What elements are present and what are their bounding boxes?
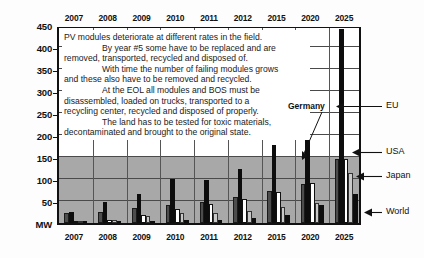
x-label-bottom-2020: 2020 bbox=[293, 232, 327, 242]
x-label-top-2015: 2015 bbox=[260, 13, 294, 23]
x-label-top-2020: 2020 bbox=[293, 13, 327, 23]
note-line-7: disassembled, loaded on trucks, transpor… bbox=[64, 96, 308, 107]
bar-world-2012 bbox=[252, 218, 257, 223]
bar-world-2025 bbox=[353, 194, 358, 223]
x-label-top-2025: 2025 bbox=[327, 13, 361, 23]
note-line-2: By year #5 some have to be replaced and … bbox=[64, 43, 308, 54]
bar-world-2015 bbox=[285, 215, 290, 223]
y-tick-label-mw: MW bbox=[4, 220, 52, 230]
y-tick-label-400: 400 bbox=[4, 44, 52, 54]
callout-usa-label: USA bbox=[386, 146, 405, 156]
note-line-5: and these also have to be removed and re… bbox=[64, 74, 308, 85]
note-line-4: With time the number of failing modules … bbox=[64, 64, 308, 75]
x-label-top-2009: 2009 bbox=[125, 13, 159, 23]
bar-world-2009 bbox=[150, 221, 155, 223]
y-tick-label-300: 300 bbox=[4, 88, 52, 98]
callout-world-label: World bbox=[386, 206, 409, 216]
x-label-bottom-2007: 2007 bbox=[57, 232, 91, 242]
x-label-bottom-2025: 2025 bbox=[327, 232, 361, 242]
callout-japan-arrow bbox=[356, 171, 384, 182]
y-tick-label-350: 350 bbox=[4, 66, 52, 76]
note-line-1: PV modules deteriorate at different rate… bbox=[64, 32, 308, 43]
x-label-bottom-2011: 2011 bbox=[192, 232, 226, 242]
x-label-bottom-2012: 2012 bbox=[226, 232, 260, 242]
x-label-top-2008: 2008 bbox=[91, 13, 125, 23]
x-label-top-2010: 2010 bbox=[158, 13, 192, 23]
callout-world-arrow bbox=[364, 207, 384, 218]
x-label-bottom-2015: 2015 bbox=[260, 232, 294, 242]
y-tick-label-200: 200 bbox=[4, 132, 52, 142]
note-line-6: At the EOL all modules and BOS must be bbox=[64, 85, 308, 96]
y-tick-label-150: 150 bbox=[4, 154, 52, 164]
callout-eu-arrow bbox=[336, 101, 384, 112]
y-tick-label-250: 250 bbox=[4, 110, 52, 120]
note-line-9: The land has to be tested for toxic mate… bbox=[64, 117, 308, 128]
bar-world-2011 bbox=[218, 220, 223, 223]
callout-usa-arrow bbox=[352, 147, 384, 158]
callout-eu-label: EU bbox=[386, 100, 399, 110]
bar-world-2020 bbox=[319, 205, 324, 223]
bar-world-2008 bbox=[117, 221, 122, 223]
annotation-text-block: PV modules deteriorate at different rate… bbox=[62, 30, 310, 140]
callout-japan-label: Japan bbox=[386, 170, 411, 180]
bar-world-2010 bbox=[184, 220, 189, 223]
note-line-10: decontaminated and brought to the origin… bbox=[64, 127, 308, 138]
x-label-bottom-2010: 2010 bbox=[158, 232, 192, 242]
bar-world-2007 bbox=[83, 221, 88, 223]
y-tick-label-450: 450 bbox=[4, 22, 52, 32]
y-tick-label-100: 100 bbox=[4, 176, 52, 186]
figure-canvas: 45040035030025020015010050MW 20072008200… bbox=[0, 0, 424, 258]
x-label-top-2012: 2012 bbox=[226, 13, 260, 23]
x-label-bottom-2009: 2009 bbox=[125, 232, 159, 242]
x-label-top-2011: 2011 bbox=[192, 13, 226, 23]
note-line-3: removed, transported, recycled and dispo… bbox=[64, 53, 308, 64]
y-tick-label-50: 50 bbox=[4, 198, 52, 208]
callout-germany-leader-line bbox=[300, 110, 340, 162]
note-line-8: recycling center, recycled and disposed … bbox=[64, 106, 308, 117]
gridline-100 bbox=[59, 178, 359, 179]
x-label-top-2007: 2007 bbox=[57, 13, 91, 23]
x-label-bottom-2008: 2008 bbox=[91, 232, 125, 242]
